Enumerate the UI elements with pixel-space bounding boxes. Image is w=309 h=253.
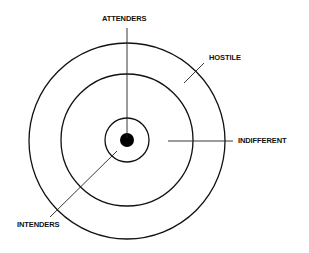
intenders-label: INTENDERS [17, 221, 59, 229]
hostile-pointer-line [184, 63, 204, 83]
intenders-pointer-line [50, 151, 117, 217]
attenders-label: ATTENDERS [102, 15, 146, 23]
hostile-label: HOSTILE [209, 54, 241, 62]
concentric-audience-diagram [0, 0, 309, 253]
indifferent-label: INDIFFERENT [238, 137, 286, 145]
